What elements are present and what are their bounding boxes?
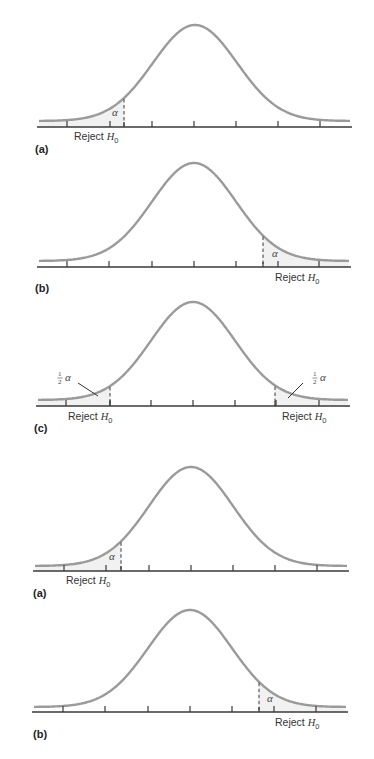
normal-curve bbox=[39, 25, 350, 121]
reject-h0-label: Reject H0 bbox=[66, 574, 110, 589]
half-alpha-label: 12α bbox=[313, 370, 327, 386]
fraction-denominator: 2 bbox=[58, 378, 62, 386]
reject-h0-label: Reject H0 bbox=[74, 130, 118, 145]
panel-a: αReject H0(a) bbox=[35, 25, 352, 155]
alpha-label: α bbox=[320, 371, 326, 383]
h-subscript: 0 bbox=[108, 416, 112, 425]
panel-label: (c) bbox=[34, 422, 48, 434]
fraction-numerator: 1 bbox=[58, 370, 62, 378]
fraction-denominator: 2 bbox=[313, 378, 317, 386]
hypothesis-test-figure: αReject H0(a)αReject H0(b)12α12αReject H… bbox=[0, 0, 374, 759]
reject-text: Reject bbox=[275, 716, 308, 728]
panel-c: 12α12αReject H0Reject H0(c) bbox=[34, 302, 350, 434]
normal-curve bbox=[38, 302, 348, 400]
h-subscript: 0 bbox=[322, 416, 326, 425]
reject-h0-label: Reject H0 bbox=[275, 716, 319, 731]
half-alpha-label: 12α bbox=[58, 370, 72, 386]
panel-label: (a) bbox=[33, 587, 47, 599]
panel-label: (b) bbox=[33, 728, 47, 740]
alpha-label: α bbox=[272, 247, 278, 259]
alpha-label: α bbox=[267, 692, 273, 704]
reject-h0-label: Reject H0 bbox=[68, 410, 112, 425]
reject-text: Reject bbox=[275, 271, 308, 283]
h-subscript: 0 bbox=[315, 722, 319, 731]
alpha-label: α bbox=[109, 550, 115, 562]
leader-line bbox=[78, 383, 98, 396]
panel-label: (a) bbox=[35, 143, 49, 155]
h-subscript: 0 bbox=[106, 580, 110, 589]
reject-h0-label: Reject H0 bbox=[282, 410, 326, 425]
reject-h0-label: Reject H0 bbox=[275, 271, 319, 286]
h-subscript: 0 bbox=[114, 136, 118, 145]
h-subscript: 0 bbox=[315, 277, 319, 286]
panel-b2: αReject H0(b) bbox=[32, 610, 348, 740]
reject-text: Reject bbox=[68, 410, 101, 422]
normal-curve bbox=[34, 610, 346, 707]
panel-a2: αReject H0(a) bbox=[33, 467, 349, 599]
normal-curve bbox=[35, 467, 347, 566]
alpha-label: α bbox=[65, 371, 71, 383]
panel-b: αReject H0(b) bbox=[35, 163, 351, 294]
reject-text: Reject bbox=[66, 574, 99, 586]
fraction-numerator: 1 bbox=[313, 370, 317, 378]
panel-label: (b) bbox=[35, 282, 49, 294]
rejection-region-shade bbox=[275, 385, 348, 406]
normal-curve bbox=[39, 163, 349, 261]
alpha-label: α bbox=[112, 106, 118, 118]
reject-text: Reject bbox=[282, 410, 315, 422]
reject-text: Reject bbox=[74, 130, 107, 142]
rejection-region-shade bbox=[38, 386, 110, 406]
